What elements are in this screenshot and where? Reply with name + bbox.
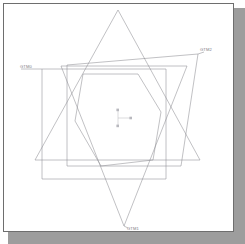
label-gtm2: GTM2 [200,47,213,52]
shape-triangle-up[interactable] [35,10,200,160]
triad-node-y-icon [116,125,119,128]
triad-node-z-icon [116,109,119,112]
shape-quad-lower[interactable] [42,69,166,179]
cad-screenshot-root: GTM0 GTM2 GTM1 [0,0,245,244]
label-gtm0: GTM0 [20,64,33,69]
drawing-canvas[interactable]: GTM0 GTM2 GTM1 [4,4,233,231]
label-gtm1: GTM1 [127,226,140,231]
leader-line-gtm2 [198,52,204,54]
origin-triad-marker[interactable] [116,109,132,128]
shape-quad-upper[interactable] [67,54,198,166]
viewport-frame: GTM0 GTM2 GTM1 [3,3,234,232]
shape-triangle-down[interactable] [61,66,187,226]
geometry-canvas-svg: GTM0 GTM2 GTM1 [4,4,233,231]
triad-node-x-icon [129,117,132,120]
